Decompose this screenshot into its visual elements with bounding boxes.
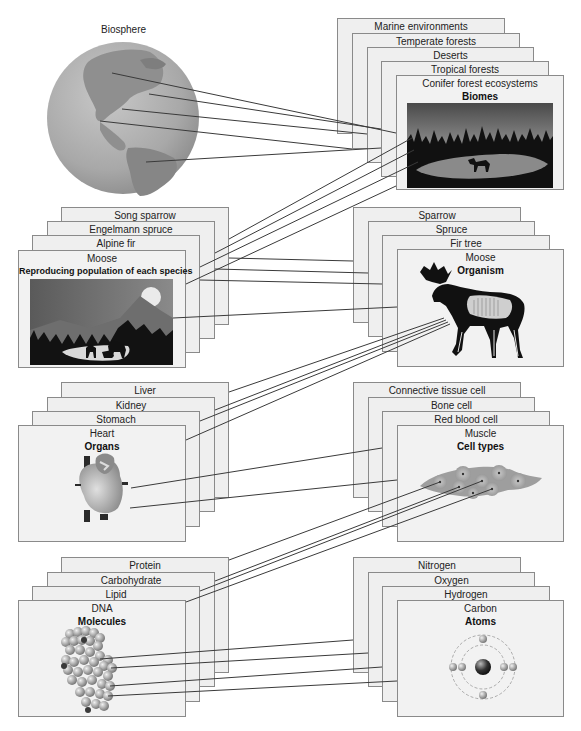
card-muscle: Muscle Cell types [397, 425, 564, 542]
card-moose-organism: Moose Organism [397, 249, 564, 367]
level-title-population: Reproducing population of each species [19, 265, 185, 277]
card-label: DNA [19, 603, 185, 615]
level-title-organs: Organs [19, 441, 185, 453]
card-label: Liver [62, 385, 228, 397]
card-dna: DNA Molecules [18, 600, 186, 717]
card-label: Alpine fir [33, 238, 199, 250]
card-label: Moose [19, 253, 185, 265]
level-title-organism: Organism [398, 265, 563, 277]
level-title-atoms: Atoms [398, 616, 563, 628]
card-label: Conifer forest ecosystems [397, 78, 563, 90]
card-label: Moose [398, 252, 563, 264]
card-label: Muscle [398, 428, 563, 440]
level-title-biomes: Biomes [397, 91, 563, 103]
level-title-molecules: Molecules [19, 616, 185, 628]
level-title-cell-types: Cell types [398, 441, 563, 453]
card-heart: Heart Organs [18, 425, 186, 542]
card-label: Connective tissue cell [354, 385, 520, 397]
card-label: Protein [62, 560, 228, 572]
card-label: Nitrogen [354, 560, 520, 572]
card-label: Marine environments [338, 21, 504, 33]
card-label: Heart [19, 428, 185, 440]
card-carbon: Carbon Atoms [397, 600, 564, 717]
card-label: Carbon [398, 603, 563, 615]
card-moose-population: Moose Reproducing population of each spe… [18, 250, 186, 368]
card-conifer-forest-ecosystems: Conifer forest ecosystems Biomes [396, 75, 564, 190]
